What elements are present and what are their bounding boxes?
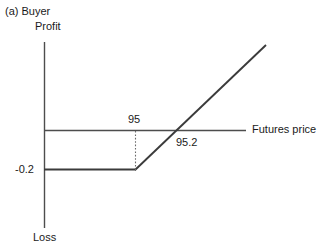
premium-value-label: -0.2 xyxy=(15,163,34,175)
y-axis-top-label: Profit xyxy=(35,20,61,32)
payoff-rising-segment xyxy=(135,45,266,170)
payoff-diagram-figure: (a) Buyer Profit Loss Futures price 95 9… xyxy=(0,0,326,251)
breakeven-price-label: 95.2 xyxy=(176,136,197,148)
panel-label: (a) Buyer xyxy=(5,5,50,17)
x-axis-label: Futures price xyxy=(252,123,316,135)
strike-price-label: 95 xyxy=(128,113,140,125)
y-axis-bottom-label: Loss xyxy=(33,231,56,243)
